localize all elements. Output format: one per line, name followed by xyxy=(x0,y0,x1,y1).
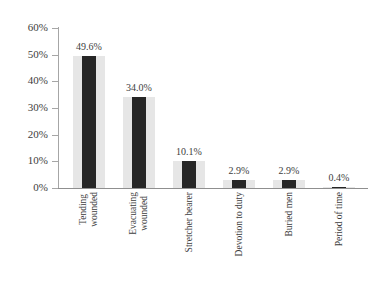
bar-band xyxy=(223,180,255,188)
bar-band xyxy=(323,187,355,188)
y-tick-label: 40% xyxy=(28,75,48,86)
x-axis-category-line-1: Devotion to duty xyxy=(234,192,244,256)
x-axis-category-label-text: Stretcher bearer xyxy=(184,192,195,252)
bar-fill xyxy=(232,180,246,188)
bar-band xyxy=(123,97,155,188)
x-axis-category-label: Buried men xyxy=(266,192,312,278)
bar-value-label: 2.9% xyxy=(212,166,266,176)
bar-fill xyxy=(82,56,96,188)
x-axis-category-label-text: Tending wounded xyxy=(78,192,100,227)
y-tick-label: 20% xyxy=(28,129,48,140)
x-axis-category-label: Tending wounded xyxy=(66,192,112,278)
x-axis-category-line-1: Period of time xyxy=(334,192,344,246)
x-axis-category-line-1: Tending xyxy=(78,194,88,225)
x-axis-category-label-text: Evacuating wounded xyxy=(128,192,150,235)
x-axis-category-label-text: Devotion to duty xyxy=(234,192,245,256)
x-axis-line xyxy=(58,188,368,189)
bar-value-label: 49.6% xyxy=(62,42,116,52)
x-axis-category-label: Devotion to duty xyxy=(216,192,262,278)
x-axis-category-label: Evacuating wounded xyxy=(116,192,162,278)
x-axis-category-label-text: Period of time xyxy=(334,192,345,246)
y-tick-label: 10% xyxy=(28,155,48,166)
y-tick-label: 60% xyxy=(28,22,48,33)
bar-fill xyxy=(332,187,346,188)
x-axis-category-line-1: Stretcher bearer xyxy=(184,192,194,252)
x-axis-category-label-text: Buried men xyxy=(284,192,295,237)
bar-value-label: 34.0% xyxy=(112,83,166,93)
y-axis-tick-labels: 60% 50% 40% 30% 20% 10% 0% xyxy=(0,0,48,281)
bar-fill xyxy=(282,180,296,188)
y-tick-label: 0% xyxy=(33,182,48,193)
bar-value-label: 2.9% xyxy=(262,166,316,176)
bar-band xyxy=(173,161,205,188)
x-axis-category-line-1: Buried men xyxy=(284,192,294,237)
bar-band xyxy=(273,180,305,188)
bar-value-label: 0.4% xyxy=(312,173,366,183)
x-axis-category-line-2: wounded xyxy=(89,192,100,227)
x-axis-category-label: Stretcher bearer xyxy=(166,192,212,278)
bar-fill xyxy=(132,97,146,188)
plot-area: 49.6% 34.0% 10.1% 2.9% 2.9% xyxy=(58,28,368,188)
x-axis-category-line-1: Evacuating xyxy=(128,192,138,235)
x-axis-category-label: Period of time xyxy=(316,192,362,278)
bar-chart: 60% 50% 40% 30% 20% 10% 0% 49.6% 34.0% 1… xyxy=(0,0,384,281)
y-tick-label: 30% xyxy=(28,102,48,113)
bar-fill xyxy=(182,161,196,188)
bar-band xyxy=(73,56,105,188)
bar-value-label: 10.1% xyxy=(162,147,216,157)
y-tick-label: 50% xyxy=(28,49,48,60)
x-axis-category-line-2: wounded xyxy=(139,192,150,235)
